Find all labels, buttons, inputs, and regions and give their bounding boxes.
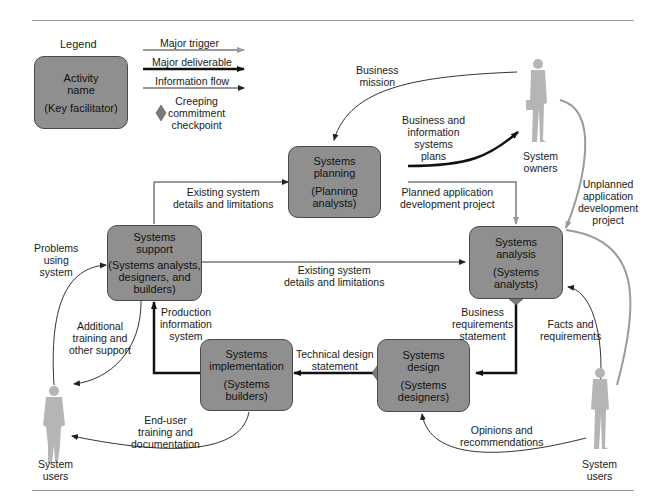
activity-systems-implementation: Systems implementation (Systems builders… xyxy=(200,339,293,411)
legend-box-facilitator: (Key facilitator) xyxy=(44,102,117,114)
flow-opinions: Opinions and recommendations xyxy=(460,424,543,448)
system-owners-figure-icon xyxy=(524,58,554,144)
activity-systems-planning: Systems planning (Planning analysts) xyxy=(288,146,381,218)
flow-technical-design: Technical design statement xyxy=(296,348,374,372)
system-users-left-label: System users xyxy=(38,458,73,482)
flow-existing-system-mid: Existing system details and limitations xyxy=(284,264,384,288)
legend-info-label: Information flow xyxy=(155,75,229,87)
flow-unplanned-project: Unplanned application development projec… xyxy=(578,178,638,226)
system-users-right-figure-icon xyxy=(586,367,614,451)
system-users-right-label: System users xyxy=(582,458,617,482)
flow-problems-using-system: Problems using system xyxy=(34,242,78,278)
flow-bis-plans: Business and information systems plans xyxy=(402,114,465,162)
flow-business-mission: Business mission xyxy=(356,64,399,88)
legend-box-name: Activity name xyxy=(64,72,99,96)
activity-systems-design: Systems design (Systems designers) xyxy=(377,339,470,412)
legend-checkpoint-label: Creeping commitment checkpoint xyxy=(168,95,225,131)
flow-business-requirements: Business requirements statement xyxy=(452,306,513,342)
activity-systems-analysis: Systems analysis (Systems analysts) xyxy=(469,226,563,299)
activity-systems-support: Systems support (Systems analysts, desig… xyxy=(107,225,202,301)
system-owners-label: System owners xyxy=(523,150,558,174)
flow-existing-system-top: Existing system details and limitations xyxy=(173,186,273,210)
legend-trigger-label: Major trigger xyxy=(160,37,219,49)
flow-enduser-training: End-user training and documentation xyxy=(131,414,200,450)
legend-checkpoint-diamond xyxy=(156,105,166,121)
system-users-left-figure-icon xyxy=(40,385,68,465)
flow-planned-project: Planned application development project xyxy=(400,186,495,210)
flow-facts-requirements: Facts and requirements xyxy=(540,318,601,342)
flow-production-system: Production information system xyxy=(160,306,212,342)
legend-activity-box: Activity name (Key facilitator) xyxy=(34,56,128,129)
flow-additional-training: Additional training and other support xyxy=(69,320,131,356)
legend-title: Legend xyxy=(60,38,97,50)
legend-deliverable-label: Major deliverable xyxy=(152,56,232,68)
